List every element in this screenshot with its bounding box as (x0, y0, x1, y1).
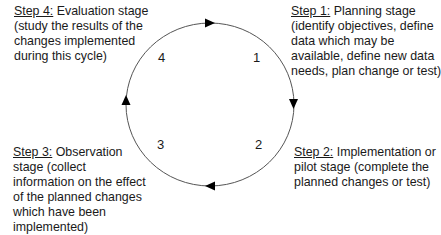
step-4-line: (study the results of the (14, 19, 148, 34)
step-1-title: Planning stage (330, 4, 415, 18)
step-1-heading: Step 1: (291, 4, 330, 18)
step-1-line: available, define new data (291, 49, 441, 64)
stage-number-2: 2 (255, 138, 262, 152)
step-2-title: Implementation or (333, 145, 436, 159)
step-3-title: Observation (52, 145, 122, 159)
step-1-line: needs, plan change or test) (291, 64, 441, 79)
step-1-description: Step 1: Planning stage (identify objecti… (291, 4, 441, 79)
stage-number-4: 4 (158, 51, 165, 65)
step-3-line: stage (collect (13, 160, 146, 175)
step-4-description: Step 4: Evaluation stage (study the resu… (14, 4, 148, 64)
stage-number-3: 3 (157, 138, 164, 152)
step-4-line: during this cycle) (14, 49, 148, 64)
step-2-description: Step 2: Implementation or pilot stage (c… (294, 145, 436, 190)
step-4-heading: Step 4: (14, 4, 53, 18)
stage-number-1: 1 (253, 51, 260, 65)
cycle-circle (126, 23, 294, 186)
step-3-line: which have been (13, 205, 146, 220)
step-2-line: pilot stage (complete the (294, 160, 436, 175)
step-3-line: implemented) (13, 220, 146, 235)
arrow-left-icon (205, 182, 215, 191)
step-3-description: Step 3: Observation stage (collect infor… (13, 145, 146, 235)
arrow-down-icon (289, 99, 298, 109)
arrow-right-icon (205, 19, 215, 28)
step-4-title: Evaluation stage (53, 4, 148, 18)
step-3-line: information on the effect (13, 175, 146, 190)
arrow-up-icon (122, 95, 131, 105)
step-3-heading: Step 3: (13, 145, 52, 159)
step-2-line: planned changes or test) (294, 175, 436, 190)
step-1-line: data which may be (291, 34, 441, 49)
step-1-line: (identify objectives, define (291, 19, 441, 34)
step-4-line: changes implemented (14, 34, 148, 49)
step-3-line: of the planned changes (13, 190, 146, 205)
step-2-heading: Step 2: (294, 145, 333, 159)
